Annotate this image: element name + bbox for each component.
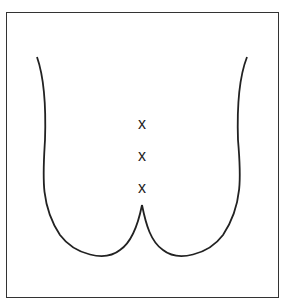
right-curve: [142, 57, 247, 256]
left-curve: [37, 57, 142, 256]
mark-2: x: [138, 148, 146, 164]
mark-3: x: [138, 180, 146, 196]
mark-1: x: [138, 116, 146, 132]
